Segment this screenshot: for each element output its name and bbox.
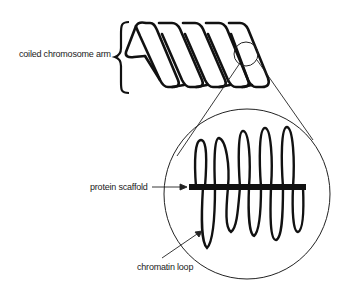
diagram-canvas: coiled chromosome arm protein scaffold c… xyxy=(0,0,352,293)
coiled-chromosome-arm xyxy=(126,22,269,87)
protein-scaffold-bar xyxy=(189,184,306,190)
arrow-head-loop xyxy=(195,231,202,237)
label-chromatin-loop: chromatin loop xyxy=(137,262,193,272)
arrow-head-scaffold xyxy=(180,184,187,190)
zoom-line-left xyxy=(177,63,240,156)
pointer-arrows xyxy=(152,184,202,258)
label-coiled-chromosome-arm: coiled chromosome arm xyxy=(19,49,111,59)
chromosome-diagram xyxy=(0,0,352,293)
label-protein-scaffold: protein scaffold xyxy=(90,182,148,192)
